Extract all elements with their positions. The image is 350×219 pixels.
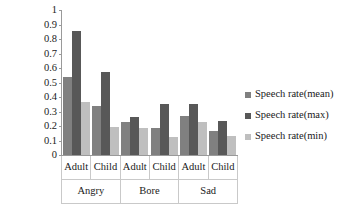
bar [218,121,227,155]
category-label-child: Child [150,156,179,180]
bar [63,77,72,155]
category-label-adult: Adult [179,156,208,180]
bar-group [150,10,179,155]
category-axis-leaf-row: AdultChildAdultChildAdultChild [61,156,238,180]
y-axis-tick-label: 0.2 [44,121,57,132]
group-label-bore: Bore [121,180,180,204]
legend-item[interactable]: Speech rate(min) [245,126,350,147]
y-axis-tick-label: 0.9 [44,19,57,30]
y-axis-tick-label: 0.7 [44,48,57,59]
bar [92,106,101,155]
bar [209,131,218,155]
bar [227,136,236,155]
legend-item[interactable]: Speech rate(max) [245,105,350,126]
bar [169,137,178,155]
y-axis-tick-label: 1 [52,5,57,16]
y-axis-tick-label: 0.5 [44,77,57,88]
legend-item-label: Speech rate(min) [255,131,327,142]
bar [130,117,139,155]
y-axis-tick-label: 0.6 [44,63,57,74]
legend-item-label: Speech rate(max) [255,110,329,121]
y-axis-tick-label: 0 [52,150,57,161]
category-label-adult: Adult [121,156,150,180]
bar [160,104,169,155]
bar-group [62,10,91,155]
category-label-child: Child [91,156,120,180]
y-axis-tick-label: 0.3 [44,106,57,117]
legend-item[interactable]: Speech rate(mean) [245,84,350,105]
bar [101,72,110,155]
group-label-sad: Sad [179,180,238,204]
bar [151,128,160,155]
legend-swatch-icon [245,113,251,119]
bar [139,128,148,155]
bar-group [208,10,237,155]
legend-item-label: Speech rate(mean) [255,89,333,100]
y-axis-tick-label: 0.8 [44,34,57,45]
bar-group [120,10,149,155]
bar [189,104,198,155]
category-axis: AdultChildAdultChildAdultChild AngryBore… [61,156,238,204]
bar [121,122,130,155]
legend-swatch-icon [245,134,251,140]
legend: Speech rate(mean)Speech rate(max)Speech … [245,84,350,147]
bar [180,116,189,155]
bar [81,102,90,155]
bar [110,127,119,155]
category-label-child: Child [209,156,238,180]
group-label-angry: Angry [61,180,121,204]
bar-chart: 10.90.80.70.60.50.40.30.20.10 AdultChild… [0,0,350,219]
category-axis-group-row: AngryBoreSad [61,180,238,204]
y-axis-tick-label: 0.1 [44,135,57,146]
legend-swatch-icon [245,92,251,98]
bar-group [91,10,120,155]
plot-area: 10.90.80.70.60.50.40.30.20.10 [62,10,237,155]
bar [198,122,207,155]
y-axis-tick-label: 0.4 [44,92,57,103]
bar-group [179,10,208,155]
bar [72,31,81,155]
category-label-adult: Adult [61,156,91,180]
